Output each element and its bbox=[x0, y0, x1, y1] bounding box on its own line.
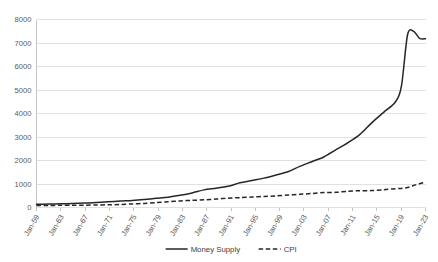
y-tick-label: 4000 bbox=[15, 109, 32, 118]
y-axis-tick-labels: 010002000300040005000600070008000 bbox=[15, 15, 32, 212]
y-tick-label: 2000 bbox=[15, 156, 32, 165]
y-tick-label: 8000 bbox=[15, 15, 32, 24]
y-tick-label: 7000 bbox=[15, 39, 32, 48]
legend-label-cpi: CPI bbox=[284, 245, 297, 254]
y-tick-label: 0 bbox=[27, 203, 31, 212]
y-tick-label: 1000 bbox=[15, 180, 32, 189]
line-chart: 010002000300040005000600070008000 Jan-59… bbox=[0, 0, 438, 262]
y-tick-label: 5000 bbox=[15, 86, 32, 95]
y-tick-label: 3000 bbox=[15, 133, 32, 142]
chart-container: 010002000300040005000600070008000 Jan-59… bbox=[0, 0, 438, 262]
y-tick-label: 6000 bbox=[15, 62, 32, 71]
legend-label-money-supply: Money Supply bbox=[191, 245, 241, 254]
